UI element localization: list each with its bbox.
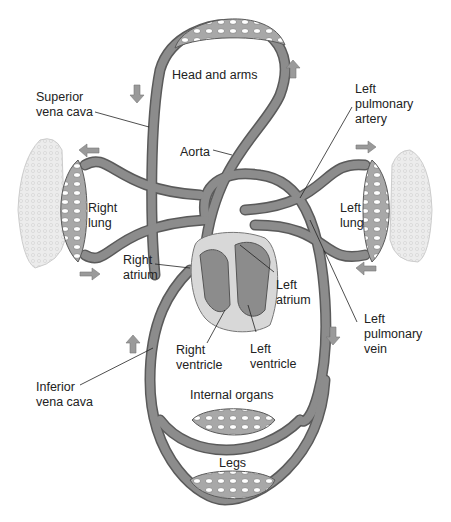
- internal-organs-capillary: [192, 409, 275, 435]
- label-left-atrium: Left atrium: [276, 278, 311, 308]
- left-lung-capillary: [363, 160, 389, 262]
- label-left-ventricle: Left ventricle: [250, 342, 297, 372]
- label-head-and-arms: Head and arms: [172, 68, 257, 83]
- label-right-lung: Right lung: [88, 201, 117, 231]
- left-lung-shape: [390, 150, 432, 262]
- label-aorta: Aorta: [180, 145, 210, 160]
- label-inferior-vena-cava: Inferior vena cava: [36, 380, 93, 410]
- label-internal-organs: Internal organs: [190, 388, 273, 403]
- label-left-pulmonary-vein: Left pulmonary vein: [364, 312, 422, 357]
- label-right-atrium: Right atrium: [123, 253, 158, 283]
- label-left-lung: Left lung: [340, 201, 364, 231]
- right-lung-shape: [18, 139, 65, 268]
- label-legs: Legs: [219, 456, 246, 471]
- label-superior-vena-cava: Superior vena cava: [36, 90, 93, 120]
- right-lung-capillary: [61, 160, 87, 262]
- circulatory-diagram: Head and arms Superior vena cava Aorta L…: [0, 0, 451, 522]
- label-left-pulmonary-artery: Left pulmonary artery: [355, 82, 413, 127]
- label-right-ventricle: Right ventricle: [176, 343, 223, 373]
- head-arms-capillary: [175, 19, 285, 48]
